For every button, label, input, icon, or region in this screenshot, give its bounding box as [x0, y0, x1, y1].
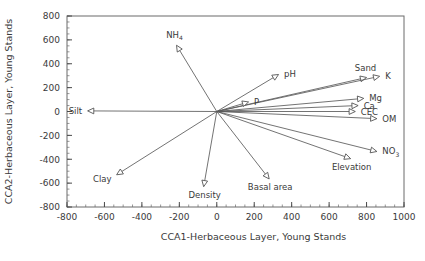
vector-label: pH	[284, 69, 296, 79]
vector-label: K	[385, 71, 391, 81]
y-tick-label: -600	[40, 178, 61, 188]
chart-canvas: -800-600-400-20002004006008001000-800-60…	[0, 0, 425, 261]
vector-label: Basal area	[248, 182, 293, 192]
vector-arrowhead	[88, 108, 94, 114]
y-tick-label: -400	[40, 155, 61, 165]
x-tick-label: -800	[57, 212, 78, 222]
vector-arrowhead	[117, 169, 124, 175]
y-tick-label: 200	[43, 83, 60, 93]
x-tick-label: 800	[358, 212, 375, 222]
vector-basal-area: Basal area	[217, 112, 293, 192]
vector-shaft	[217, 112, 345, 157]
vector-arrowhead	[352, 103, 358, 109]
vector-group: NH4pHSandKMgCaCECOMNO3ElevationPSiltClay…	[69, 30, 400, 199]
vector-arrowhead	[177, 45, 183, 52]
x-axis-title: CCA1-Herbaceous Layer, Young Stands	[161, 231, 346, 242]
vector-arrowhead	[272, 74, 279, 80]
x-tick-label: -200	[169, 212, 190, 222]
x-tick-label: 200	[246, 212, 263, 222]
vector-shaft	[94, 111, 217, 112]
vector-silt: Silt	[69, 106, 217, 116]
vector-shaft	[217, 112, 266, 175]
vector-label-subscript: 3	[395, 151, 399, 158]
vector-arrowhead	[360, 76, 367, 82]
vector-label: NO3	[382, 146, 399, 157]
vector-arrowhead	[202, 180, 208, 187]
x-tick-label: 0	[214, 212, 220, 222]
x-tick-label: 1000	[393, 212, 416, 222]
vector-label: Sand	[355, 63, 376, 73]
y-tick-label: -800	[40, 202, 61, 212]
vector-shaft	[180, 51, 217, 112]
vector-arrowhead	[349, 109, 355, 115]
vector-label: NH4	[166, 30, 183, 41]
x-tick-label: 600	[321, 212, 338, 222]
vector-label: Clay	[93, 174, 112, 184]
x-tick-label: -600	[94, 212, 115, 222]
vector-clay: Clay	[93, 112, 217, 185]
vector-label: OM	[382, 114, 396, 124]
vector-shaft	[122, 112, 217, 172]
y-tick-label: 400	[43, 59, 60, 69]
x-tick-label: -400	[132, 212, 153, 222]
vector-label: Elevation	[332, 162, 371, 172]
y-tick-label: 600	[43, 35, 60, 45]
vector-arrowhead	[373, 75, 380, 81]
vector-label: P	[254, 97, 259, 107]
vector-label-subscript: 4	[179, 34, 183, 41]
vector-density: Density	[189, 112, 221, 200]
y-tick-label: 0	[54, 107, 60, 117]
vector-arrowhead	[370, 147, 377, 153]
vector-shaft	[217, 78, 374, 112]
vector-label: Silt	[69, 106, 83, 116]
y-tick-label: -200	[40, 131, 61, 141]
vector-nh4: NH4	[166, 30, 217, 111]
vector-shaft	[205, 112, 217, 181]
y-tick-label: 800	[43, 11, 60, 21]
y-axis-title: CCA2-Herbaceous Layer, Young Stands	[3, 19, 14, 204]
vector-label: CEC	[361, 107, 378, 117]
vector-arrowhead	[344, 154, 351, 159]
vector-mg: Mg	[217, 93, 382, 111]
x-tick-label: 400	[283, 212, 300, 222]
cca-biplot-figure: -800-600-400-20002004006008001000-800-60…	[0, 0, 425, 261]
vector-shaft	[217, 78, 273, 112]
vector-arrowhead	[263, 172, 269, 179]
vector-label: Density	[189, 190, 221, 200]
